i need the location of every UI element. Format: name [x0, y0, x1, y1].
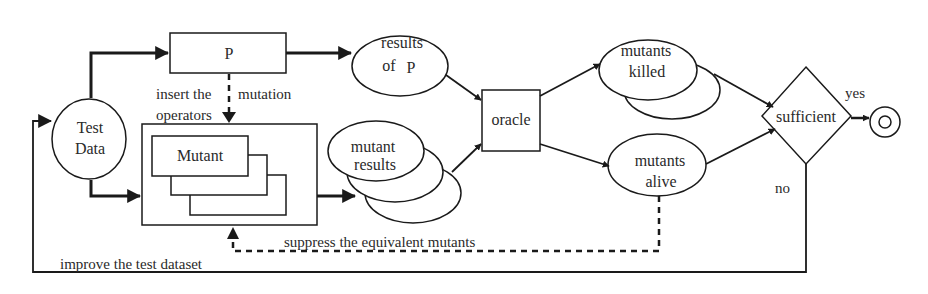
mutants-killed-line2: killed	[629, 63, 665, 80]
mutants-alive-line2: alive	[645, 173, 676, 190]
edge-testdata-to-mutant	[91, 180, 140, 196]
arrowhead-suppress	[227, 227, 239, 239]
mutation-testing-diagram: Test Data P Mutant results of P mutant r…	[0, 0, 928, 294]
edge-killed-to-sufficient	[714, 74, 773, 107]
mutants-killed-line1: mutants	[621, 42, 672, 59]
label-mutation: mutation	[238, 86, 292, 102]
mutant-label: Mutant	[177, 147, 224, 164]
mutant-results-line1: mutant	[351, 138, 396, 155]
mutant-results-line2: results	[354, 156, 396, 173]
label-insert-the: insert the	[156, 86, 212, 102]
edge-oracle-to-alive	[540, 144, 609, 166]
mutants-alive-line1: mutants	[635, 152, 686, 169]
label-improve-dataset: improve the test dataset	[60, 256, 203, 272]
arrowhead-insert-mutation	[222, 112, 236, 123]
label-yes: yes	[845, 85, 865, 101]
edge-alive-to-sufficient	[706, 129, 775, 164]
results-of-p-p: P	[407, 59, 416, 76]
edge-oracle-to-killed	[540, 64, 600, 96]
results-of-p-of: of	[382, 57, 396, 74]
label-operators: operators	[156, 107, 212, 123]
test-data-line2: Data	[75, 140, 105, 157]
node-test-data	[52, 99, 126, 179]
label-suppress-equivalent: suppress the equivalent mutants	[284, 234, 475, 250]
label-no: no	[775, 180, 790, 196]
sufficient-label: sufficient	[776, 108, 837, 125]
results-of-p-line1: results	[381, 34, 423, 51]
node-end-state	[870, 107, 900, 137]
program-p-label: P	[225, 45, 234, 62]
edge-mutant-results-to-oracle	[452, 144, 481, 172]
test-data-line1: Test	[77, 119, 104, 136]
oracle-label: oracle	[491, 111, 530, 128]
edge-results-p-to-oracle	[446, 75, 481, 100]
node-mutant-container	[142, 124, 317, 225]
